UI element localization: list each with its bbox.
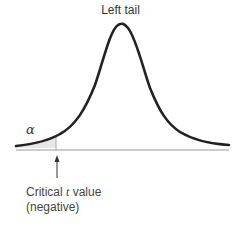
- distribution-curve-line: [16, 24, 229, 146]
- arrow-head-icon: [55, 155, 60, 162]
- critical-label-line2: (negative): [26, 200, 101, 215]
- critical-label-prefix: Critical: [26, 185, 66, 199]
- alpha-label: α: [26, 122, 35, 137]
- critical-label-suffix: value: [69, 185, 101, 199]
- critical-value-label: Critical t value (negative): [26, 185, 101, 215]
- critical-label-line1: Critical t value: [26, 185, 101, 200]
